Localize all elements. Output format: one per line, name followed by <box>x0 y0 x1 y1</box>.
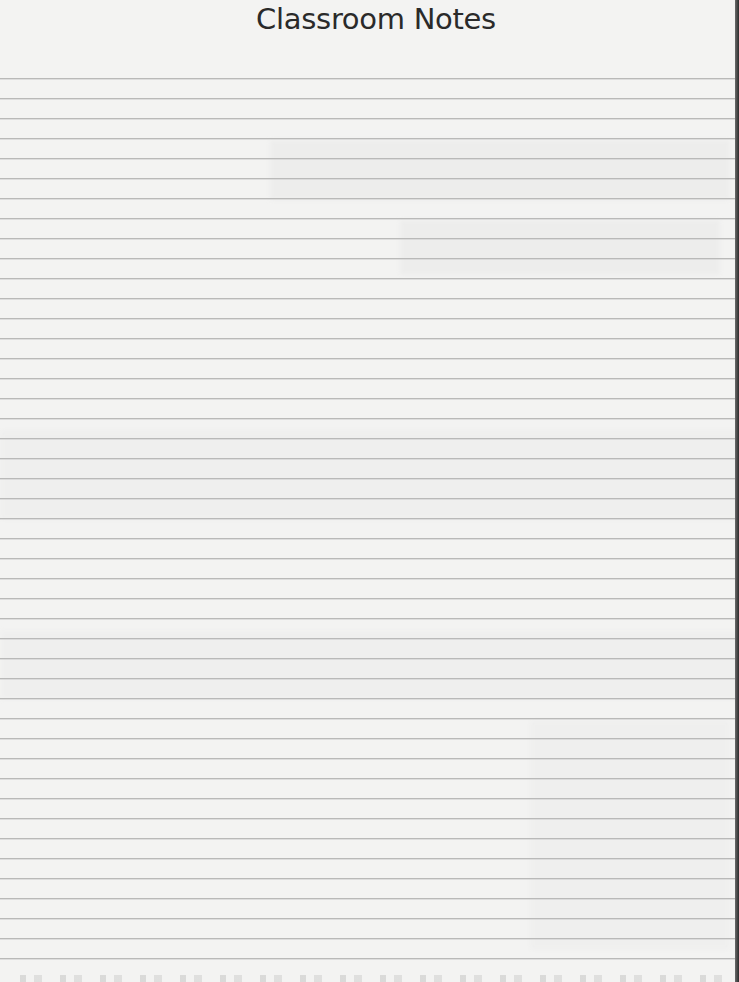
ruled-line <box>0 318 735 319</box>
ruled-line <box>0 738 735 739</box>
ruled-line <box>0 578 735 579</box>
ruled-line <box>0 258 735 259</box>
ruled-line <box>0 938 735 939</box>
ruled-line <box>0 338 735 339</box>
ruled-line <box>0 458 735 459</box>
notepaper-page: Classroom Notes <box>0 0 735 982</box>
ruled-line <box>0 438 735 439</box>
ruled-line <box>0 518 735 519</box>
ruled-line <box>0 958 735 959</box>
ruled-line <box>0 758 735 759</box>
ruled-line <box>0 78 735 79</box>
ruled-line <box>0 838 735 839</box>
ruled-line <box>0 158 735 159</box>
ruled-line <box>0 478 735 479</box>
ruled-line <box>0 658 735 659</box>
ruled-line <box>0 618 735 619</box>
ruled-line <box>0 678 735 679</box>
ruled-line <box>0 298 735 299</box>
ruled-line <box>0 858 735 859</box>
ruled-line <box>0 498 735 499</box>
page-edge-border <box>735 0 739 982</box>
ruled-line <box>0 358 735 359</box>
ruled-line <box>0 698 735 699</box>
ruled-line <box>0 598 735 599</box>
ruled-line <box>0 118 735 119</box>
ruled-line <box>0 538 735 539</box>
ruled-line <box>0 198 735 199</box>
page-title: Classroom Notes <box>0 0 735 37</box>
ruled-lines <box>0 0 735 982</box>
ruled-line <box>0 558 735 559</box>
ruled-line <box>0 138 735 139</box>
ruled-line <box>0 818 735 819</box>
ruled-line <box>0 98 735 99</box>
ruled-line <box>0 918 735 919</box>
ruled-line <box>0 638 735 639</box>
ruled-line <box>0 238 735 239</box>
ruled-line <box>0 878 735 879</box>
ruled-line <box>0 178 735 179</box>
ruled-line <box>0 378 735 379</box>
bleed-through-text-strip <box>20 975 727 982</box>
ruled-line <box>0 218 735 219</box>
ruled-line <box>0 278 735 279</box>
ruled-line <box>0 798 735 799</box>
ruled-line <box>0 418 735 419</box>
ruled-line <box>0 898 735 899</box>
ruled-line <box>0 778 735 779</box>
ruled-line <box>0 398 735 399</box>
ruled-line <box>0 718 735 719</box>
